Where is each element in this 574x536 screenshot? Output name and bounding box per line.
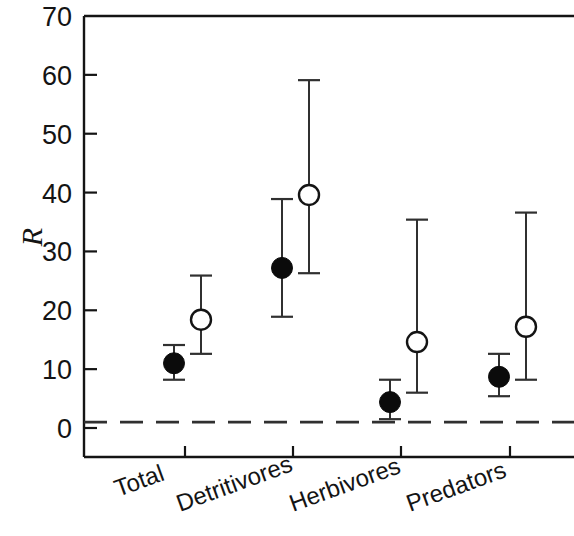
y-axis-title: R: [15, 228, 48, 247]
data-points-layer: [163, 80, 537, 419]
y-tick-label: 50: [42, 120, 72, 150]
plot-frame: [84, 16, 574, 457]
data-point-open-circle: [516, 317, 536, 337]
chart-figure: 010203040506070 R TotalDetritivoresHerbi…: [0, 0, 574, 536]
y-tick-label: 10: [42, 355, 72, 385]
data-point-open-circle: [191, 310, 211, 330]
data-point-open-circle: [407, 332, 427, 352]
data-point-filled-circle: [489, 366, 510, 387]
y-tick-label: 0: [57, 414, 72, 444]
y-tick-label: 20: [42, 296, 72, 326]
y-tick-label: 70: [42, 2, 72, 32]
x-category-label: Herbivores: [285, 452, 403, 517]
y-axis-ticks: 010203040506070: [42, 2, 97, 444]
data-point-filled-circle: [272, 257, 293, 278]
x-axis-category-labels: TotalDetritivoresHerbivoresPredators: [110, 450, 509, 517]
x-category-label: Predators: [402, 456, 509, 517]
data-point-filled-circle: [164, 353, 185, 374]
y-tick-label: 60: [42, 61, 72, 91]
data-point-open-circle: [299, 185, 319, 205]
data-point-filled-circle: [380, 392, 401, 413]
x-category-label: Total: [110, 459, 167, 502]
x-category-label: Detritivores: [172, 450, 295, 517]
x-axis-ticks: [185, 446, 510, 457]
y-tick-label: 40: [42, 179, 72, 209]
scatter-plot-svg: 010203040506070 R TotalDetritivoresHerbi…: [0, 0, 574, 536]
